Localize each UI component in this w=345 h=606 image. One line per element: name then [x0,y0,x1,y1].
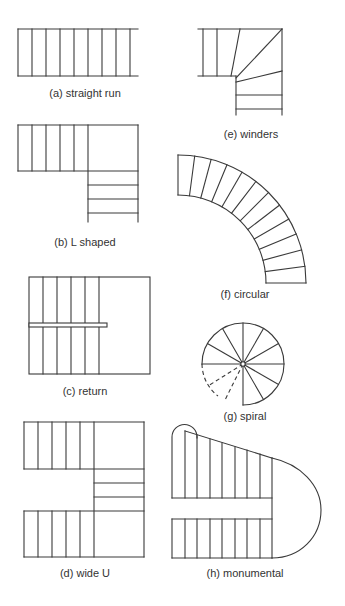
panel-g-spiral [202,323,284,405]
caption-g: (g) spiral [224,410,267,422]
panel-b-l-shaped [18,125,138,222]
balustrade [29,323,107,327]
panel-f-circular [178,155,306,283]
panel-d-wide-u [24,422,144,557]
caption-e: (e) winders [224,128,278,140]
panel-e-winders [198,29,282,115]
panel-a-straight-run [18,29,138,76]
caption-f: (f) circular [221,288,270,300]
caption-h: (h) monumental [206,567,283,579]
panel-c-return [29,277,150,374]
caption-c: (c) return [63,385,108,397]
caption-b: (b) L shaped [54,236,115,248]
caption-a: (a) straight run [49,87,121,99]
panel-h-monumental [172,425,321,559]
caption-d: (d) wide U [60,567,110,579]
